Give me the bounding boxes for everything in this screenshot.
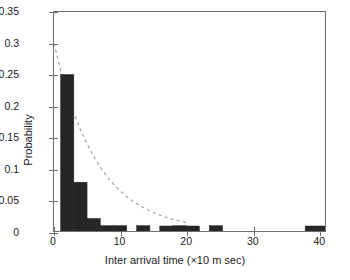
histogram-bar	[74, 182, 87, 231]
y-tick-label: 0.2	[0, 100, 19, 111]
histogram-bar	[113, 226, 126, 231]
x-tick-label: 40	[299, 236, 339, 247]
x-tick-label: 30	[233, 236, 273, 247]
x-tick-label: 0	[33, 236, 73, 247]
y-tick-label: 0.05	[0, 195, 19, 206]
histogram-bar	[318, 226, 325, 231]
y-tick-label: 0.3	[0, 37, 19, 48]
histogram-bar	[209, 226, 222, 231]
plot-area	[53, 11, 326, 232]
histogram-bar	[186, 226, 199, 231]
histogram-bar	[160, 226, 173, 231]
y-tick-label: 0	[0, 227, 19, 238]
y-tick-label: 0.15	[0, 132, 19, 143]
x-tick-label: 10	[100, 236, 140, 247]
x-axis-title: Inter arrival time (×10 m sec)	[0, 254, 350, 266]
histogram-bar	[137, 226, 150, 231]
y-tick-label: 0.1	[0, 164, 19, 175]
histogram-bar	[305, 226, 318, 231]
y-tick-label: 0.35	[0, 6, 19, 17]
histogram-bar	[87, 218, 100, 231]
plot-inner	[54, 12, 325, 231]
histogram-bar	[173, 226, 186, 231]
histogram-bar	[100, 226, 113, 231]
chart-figure: Probability 00.050.10.150.20.250.30.35 0…	[0, 0, 350, 280]
y-tick-label: 0.25	[0, 69, 19, 80]
y-axis-title-text: Probability	[22, 114, 34, 165]
histogram-bar	[61, 75, 74, 231]
x-tick-label: 20	[166, 236, 206, 247]
histogram-bars	[54, 12, 325, 231]
